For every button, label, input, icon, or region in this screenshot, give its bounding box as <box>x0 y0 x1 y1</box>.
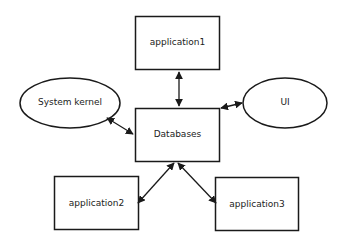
application2-label: application2 <box>54 198 139 208</box>
system-kernel-label: System kernel <box>20 97 120 107</box>
edge-ui-databases <box>221 103 242 108</box>
edge-application2-databases <box>138 163 174 203</box>
ui-label: UI <box>243 97 327 107</box>
edge-application3-databases <box>178 163 216 203</box>
application3-label: application3 <box>215 199 299 209</box>
diagram-canvas: application1 System kernel Databases UI … <box>0 0 344 244</box>
edge-system-kernel-databases <box>107 118 133 134</box>
databases-label: Databases <box>135 129 220 139</box>
application1-label: application1 <box>135 37 220 47</box>
